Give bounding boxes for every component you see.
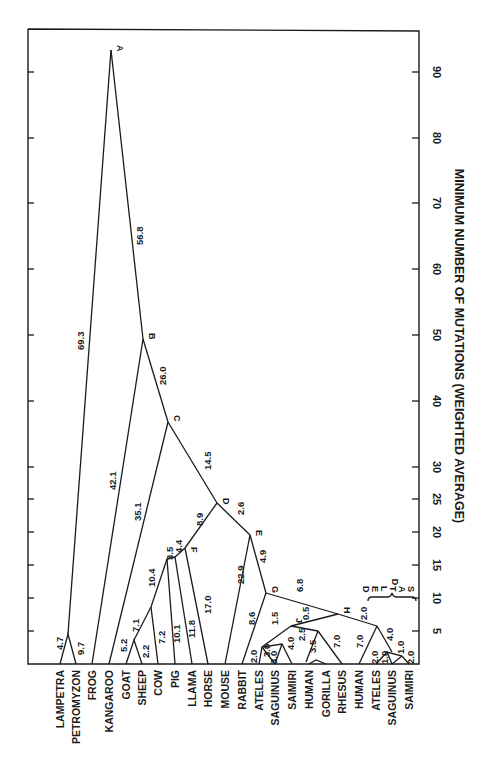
taxon-label: HORSE bbox=[202, 670, 214, 707]
taxon-label: MOUSE bbox=[219, 670, 231, 709]
svg-text:4.0: 4.0 bbox=[384, 628, 395, 641]
right-axis-ticks bbox=[412, 72, 419, 631]
taxon-label: SHEEP bbox=[136, 670, 148, 706]
left-axis-ticks bbox=[28, 72, 34, 631]
svg-text:60: 60 bbox=[431, 263, 443, 275]
svg-text:T: T bbox=[388, 586, 398, 592]
svg-text:35.1: 35.1 bbox=[132, 502, 143, 521]
svg-text:14.5: 14.5 bbox=[202, 451, 213, 470]
svg-text:3.5: 3.5 bbox=[307, 639, 318, 653]
svg-text:4.7: 4.7 bbox=[54, 637, 65, 650]
branch-length-labels: 4.7 9.7 69.3 56.8 42.1 26.0 35.1 14.5 5.… bbox=[54, 227, 416, 665]
svg-text:10.1: 10.1 bbox=[171, 624, 182, 643]
svg-text:L: L bbox=[379, 586, 389, 592]
svg-text:5: 5 bbox=[431, 628, 443, 634]
svg-text:4.0: 4.0 bbox=[285, 637, 296, 650]
taxon-label: LAMPETRA bbox=[54, 670, 66, 729]
svg-text:6.8: 6.8 bbox=[294, 579, 305, 592]
taxon-label: SAGUINUS bbox=[386, 670, 398, 725]
svg-text:1.5: 1.5 bbox=[269, 611, 280, 625]
svg-text:70: 70 bbox=[431, 197, 443, 209]
svg-text:8.6: 8.6 bbox=[246, 612, 257, 625]
svg-text:7.0: 7.0 bbox=[354, 635, 365, 648]
svg-text:1.0: 1.0 bbox=[379, 651, 390, 664]
node-labels: A B C D E F G H J bbox=[115, 45, 352, 623]
svg-text:40: 40 bbox=[431, 395, 443, 407]
svg-text:90: 90 bbox=[431, 66, 443, 78]
svg-text:17.0: 17.0 bbox=[202, 596, 213, 615]
svg-text:2.0: 2.0 bbox=[248, 650, 259, 663]
svg-text:22.9: 22.9 bbox=[235, 566, 246, 585]
svg-text:S: S bbox=[406, 586, 416, 592]
svg-text:4.4: 4.4 bbox=[173, 539, 184, 553]
svg-text:5.2: 5.2 bbox=[118, 639, 129, 652]
taxon-label: SAGUINUS bbox=[269, 670, 281, 725]
svg-text:26.0: 26.0 bbox=[157, 367, 168, 386]
svg-text:30: 30 bbox=[431, 461, 443, 473]
svg-text:10.4: 10.4 bbox=[146, 568, 157, 587]
svg-text:42.1: 42.1 bbox=[107, 471, 118, 490]
taxon-label: RHESUS bbox=[336, 670, 348, 714]
taxon-label: LLAMA bbox=[186, 670, 198, 707]
svg-text:E: E bbox=[370, 586, 380, 592]
svg-text:20: 20 bbox=[431, 526, 443, 538]
svg-text:7.0: 7.0 bbox=[331, 635, 342, 648]
svg-text:G: G bbox=[270, 586, 280, 593]
svg-text:56.8: 56.8 bbox=[134, 227, 145, 246]
svg-text:8.9: 8.9 bbox=[194, 513, 205, 526]
taxon-labels: LAMPETRA PETROMYZON FROG KANGAROO GOAT S… bbox=[54, 669, 415, 744]
taxon-label: ATELES bbox=[370, 670, 382, 711]
taxon-label: GORILLA bbox=[320, 670, 332, 718]
svg-text:2.2: 2.2 bbox=[140, 645, 151, 658]
svg-text:D: D bbox=[361, 586, 371, 593]
svg-text:7.1: 7.1 bbox=[130, 618, 141, 632]
phylogenetic-tree: 5 10 15 20 25 30 40 50 60 70 80 90 MINIM… bbox=[0, 0, 486, 769]
taxon-label: HUMAN bbox=[353, 670, 365, 709]
svg-text:80: 80 bbox=[431, 132, 443, 144]
taxon-label: COW bbox=[152, 670, 164, 696]
svg-text:F: F bbox=[189, 547, 199, 553]
svg-text:D: D bbox=[390, 579, 400, 586]
svg-text:D: D bbox=[221, 498, 231, 505]
svg-text:H: H bbox=[342, 607, 352, 614]
svg-text:A: A bbox=[397, 586, 407, 593]
taxon-label: ATELES bbox=[253, 670, 265, 711]
taxon-label: PETROMYZON bbox=[70, 670, 82, 744]
svg-text:2.0: 2.0 bbox=[358, 607, 369, 620]
deltas-bracket: D D E L T A S bbox=[361, 579, 416, 601]
svg-text:4.9: 4.9 bbox=[257, 550, 268, 563]
taxon-label: FROG bbox=[86, 670, 98, 700]
svg-text:25: 25 bbox=[431, 493, 443, 505]
svg-text:2.5: 2.5 bbox=[296, 627, 307, 641]
svg-text:E: E bbox=[254, 530, 264, 536]
svg-text:C: C bbox=[172, 415, 182, 422]
axis-tick-labels: 5 10 15 20 25 30 40 50 60 70 80 90 bbox=[431, 66, 443, 634]
taxon-label: KANGAROO bbox=[103, 670, 115, 732]
svg-text:3.0: 3.0 bbox=[268, 651, 279, 664]
svg-text:0.5: 0.5 bbox=[300, 606, 311, 620]
taxon-label: SAIMIRI bbox=[403, 670, 415, 710]
taxon-label: SAIMIRI bbox=[286, 670, 298, 710]
svg-text:7.2: 7.2 bbox=[156, 631, 167, 644]
axis-title: MINIMUM NUMBER OF MUTATIONS (WEIGHTED AV… bbox=[452, 169, 466, 523]
svg-text:A: A bbox=[115, 45, 125, 52]
svg-text:2.0: 2.0 bbox=[405, 651, 416, 664]
plot-frame bbox=[28, 29, 419, 664]
taxon-label: HUMAN bbox=[303, 670, 315, 709]
svg-text:2.6: 2.6 bbox=[235, 502, 246, 515]
taxon-label: PIG bbox=[169, 670, 181, 688]
svg-text:11.8: 11.8 bbox=[186, 620, 197, 638]
svg-text:10: 10 bbox=[431, 592, 443, 604]
taxon-label: GOAT bbox=[120, 669, 132, 699]
svg-text:50: 50 bbox=[431, 329, 443, 341]
svg-text:9.7: 9.7 bbox=[75, 642, 86, 655]
svg-text:B: B bbox=[147, 333, 157, 340]
taxon-label: RABBIT bbox=[236, 669, 248, 709]
svg-text:15: 15 bbox=[431, 559, 443, 571]
svg-text:69.3: 69.3 bbox=[75, 332, 86, 351]
